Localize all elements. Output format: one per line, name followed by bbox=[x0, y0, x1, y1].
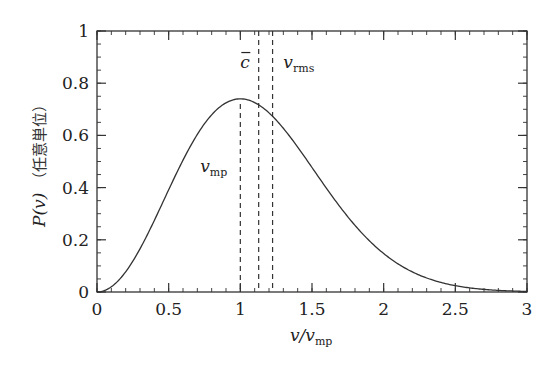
x-tick-label: 0.5 bbox=[155, 299, 182, 319]
svg-text:（任意単位）: （任意単位） bbox=[31, 97, 49, 187]
svg-text:P(v): P(v) bbox=[29, 193, 49, 228]
x-tick-label: 3 bbox=[522, 299, 533, 319]
y-tick-label: 0.8 bbox=[62, 73, 89, 93]
x-tick-label: 0 bbox=[92, 299, 103, 319]
y-tick-label: 1 bbox=[78, 21, 89, 41]
distribution-curve bbox=[97, 99, 527, 292]
annotations: vmpcvrms bbox=[200, 52, 314, 179]
annotation-cbar: c bbox=[240, 52, 250, 72]
annotation-mp: vmp bbox=[200, 156, 227, 179]
maxwell-distribution-chart: 00.511.522.5300.20.40.60.81 vmpcvrms v/v… bbox=[0, 0, 549, 369]
y-tick-label: 0.4 bbox=[62, 178, 89, 198]
y-axis-label: P(v) （任意単位） bbox=[29, 97, 49, 228]
y-tick-label: 0 bbox=[78, 282, 89, 302]
x-axis-label: v/vmp bbox=[290, 325, 332, 348]
x-tick-label: 1 bbox=[235, 299, 246, 319]
x-tick-label: 2.5 bbox=[442, 299, 469, 319]
x-tick-label: 2 bbox=[378, 299, 389, 319]
y-tick-label: 0.2 bbox=[62, 230, 89, 250]
x-tick-label: 1.5 bbox=[298, 299, 325, 319]
annotation-rms: vrms bbox=[283, 52, 314, 75]
y-tick-label: 0.6 bbox=[62, 125, 89, 145]
